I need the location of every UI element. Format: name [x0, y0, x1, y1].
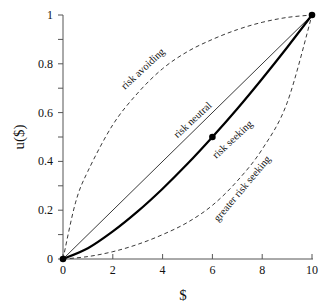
x-tick-label: 0: [60, 263, 66, 277]
y-tick-label: 0: [47, 252, 53, 266]
x-tick-label: 8: [259, 263, 265, 277]
y-tick-label: 0.4: [38, 154, 53, 168]
y-tick-label: 1: [47, 8, 53, 22]
data-point: [209, 134, 216, 141]
y-ticks: 00.20.40.60.81: [38, 8, 63, 266]
greater-risk-seeking-label: greater risk seeking: [211, 153, 273, 224]
risk-neutral-label: risk neutral: [171, 100, 213, 141]
x-axis-title: $: [179, 287, 187, 303]
data-point: [309, 12, 316, 19]
risk-avoiding-label: risk avoiding: [119, 45, 167, 91]
utility-chart: 00.20.40.60.81 0246810 risk avoidingrisk…: [0, 0, 324, 307]
y-tick-label: 0.2: [38, 203, 53, 217]
x-ticks: 0246810: [60, 254, 318, 277]
x-tick-label: 6: [209, 263, 215, 277]
y-tick-label: 0.6: [38, 106, 53, 120]
risk-seeking-label: risk seeking: [210, 118, 255, 161]
y-tick-label: 0.8: [38, 57, 53, 71]
axes: 00.20.40.60.81 0246810: [38, 8, 318, 277]
data-point: [60, 256, 67, 263]
x-tick-label: 4: [160, 263, 166, 277]
curve-labels: risk avoidingrisk neutralrisk seekinggre…: [119, 45, 273, 223]
y-axis-title: u($): [11, 125, 28, 150]
risk-neutral-curve: [63, 15, 312, 259]
x-tick-label: 10: [306, 263, 318, 277]
x-tick-label: 2: [110, 263, 116, 277]
curves: [63, 15, 312, 259]
